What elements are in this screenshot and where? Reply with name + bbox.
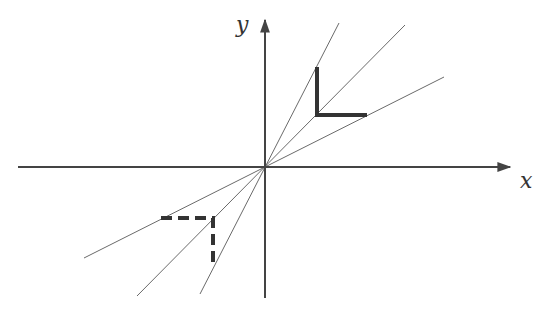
diagonal-line [137,25,405,296]
dashed-L-shape [161,218,213,267]
x-axis-label: x [520,168,533,193]
steep-line [200,23,339,294]
y-axis-label: y [235,12,249,37]
solid-L-shape [317,67,367,115]
coordinate-diagram: x y [0,0,555,311]
